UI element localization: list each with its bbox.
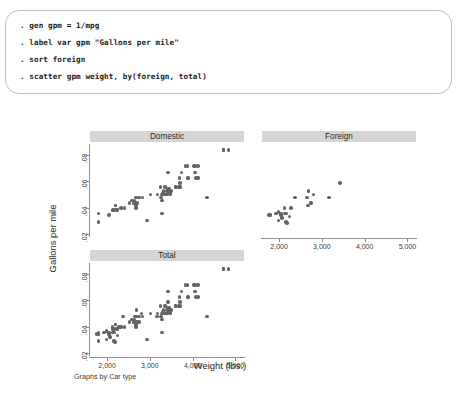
- data-point: [196, 176, 200, 180]
- data-point: [280, 216, 284, 220]
- data-point: [121, 315, 125, 319]
- y-tick-label: .02: [81, 233, 88, 257]
- data-point: [160, 199, 164, 203]
- data-point: [178, 300, 182, 304]
- command-line-1: . gen gpm = 1/mpg: [20, 21, 99, 30]
- data-point: [327, 196, 331, 200]
- data-point: [134, 206, 138, 210]
- data-point: [267, 213, 271, 217]
- data-point: [112, 331, 116, 335]
- x-tick-label: 5,000: [387, 243, 427, 250]
- data-point: [178, 185, 182, 189]
- data-point: [338, 181, 342, 185]
- x-axis-line-total: [89, 357, 245, 358]
- y-axis-line-domestic: [89, 144, 90, 237]
- x-tick: [193, 358, 194, 361]
- x-tick-label: 4,000: [173, 362, 213, 369]
- command-line-4: . scatter gpm weight, by(foreign, total): [20, 72, 207, 81]
- data-point: [135, 308, 139, 312]
- data-point: [193, 171, 197, 175]
- data-point: [184, 283, 188, 287]
- y-axis-line-total: [89, 263, 90, 356]
- data-point: [145, 219, 149, 223]
- data-point: [161, 191, 165, 195]
- data-point: [117, 325, 121, 329]
- y-tick-label: .08: [81, 153, 88, 177]
- data-point: [145, 338, 149, 342]
- data-point: [196, 295, 200, 299]
- data-point: [196, 164, 200, 168]
- x-tick: [407, 239, 408, 242]
- data-point: [97, 220, 101, 224]
- plot-area-total: [90, 263, 244, 356]
- y-tick-label: .06: [81, 299, 88, 323]
- data-point: [222, 267, 226, 271]
- data-point: [141, 315, 145, 319]
- data-point: [161, 310, 165, 314]
- data-point: [184, 164, 188, 168]
- data-point: [187, 176, 191, 180]
- data-point: [178, 181, 182, 185]
- data-point: [123, 325, 127, 329]
- data-point: [123, 206, 127, 210]
- data-point: [289, 206, 293, 210]
- data-point: [227, 148, 231, 152]
- data-point: [114, 204, 118, 208]
- data-point: [141, 196, 145, 200]
- data-point: [227, 267, 231, 271]
- x-tick: [322, 239, 323, 242]
- data-point: [222, 148, 226, 152]
- data-point: [178, 176, 182, 180]
- data-point: [130, 199, 134, 203]
- data-point: [168, 193, 172, 197]
- panel-domestic: Domestic.02.04.06.08: [90, 131, 244, 255]
- x-tick-label: 4,000: [345, 243, 385, 250]
- panel-title-domestic: Domestic: [90, 131, 244, 142]
- stata-command-box: . gen gpm = 1/mpg . label var gpm "Gallo…: [5, 10, 452, 94]
- x-axis-line-foreign: [261, 238, 417, 239]
- data-point: [307, 189, 311, 193]
- y-axis-title: Gallons per mile: [47, 169, 58, 309]
- data-point: [205, 315, 209, 319]
- panel-title-foreign: Foreign: [262, 131, 416, 142]
- data-point: [115, 208, 119, 212]
- data-point: [116, 334, 120, 338]
- plot-area-domestic: [90, 144, 244, 237]
- x-tick: [365, 239, 366, 242]
- data-point: [168, 312, 172, 316]
- data-point: [305, 196, 309, 200]
- data-point: [284, 212, 288, 216]
- data-point: [166, 171, 170, 175]
- data-point: [137, 320, 141, 324]
- data-point: [178, 295, 182, 299]
- data-point: [187, 295, 191, 299]
- y-tick-label: .06: [81, 180, 88, 204]
- data-point: [137, 315, 141, 319]
- data-point: [113, 340, 117, 344]
- data-point: [137, 196, 141, 200]
- data-point: [205, 196, 209, 200]
- x-tick: [150, 358, 151, 361]
- data-point: [193, 290, 197, 294]
- data-point: [180, 290, 184, 294]
- data-point: [293, 196, 297, 200]
- data-point: [149, 312, 153, 316]
- data-point: [283, 206, 287, 210]
- data-point: [309, 201, 313, 205]
- y-tick-label: .04: [81, 206, 88, 230]
- data-point: [169, 308, 173, 312]
- stata-graph: Gallons per mile Weight (lbs.) Graphs by…: [0, 110, 463, 399]
- command-line-2: . label var gpm "Gallons per mile": [20, 38, 179, 47]
- data-point: [135, 201, 139, 205]
- data-point: [160, 212, 164, 216]
- panel-foreign: Foreign2,0003,0004,0005,000: [262, 131, 416, 255]
- data-point: [166, 290, 170, 294]
- y-tick-label: .08: [81, 272, 88, 296]
- data-point: [285, 221, 289, 225]
- data-point: [149, 193, 153, 197]
- plot-area-foreign: [262, 144, 416, 237]
- data-point: [107, 213, 111, 217]
- data-point: [180, 171, 184, 175]
- data-point: [160, 318, 164, 322]
- data-point: [108, 335, 112, 339]
